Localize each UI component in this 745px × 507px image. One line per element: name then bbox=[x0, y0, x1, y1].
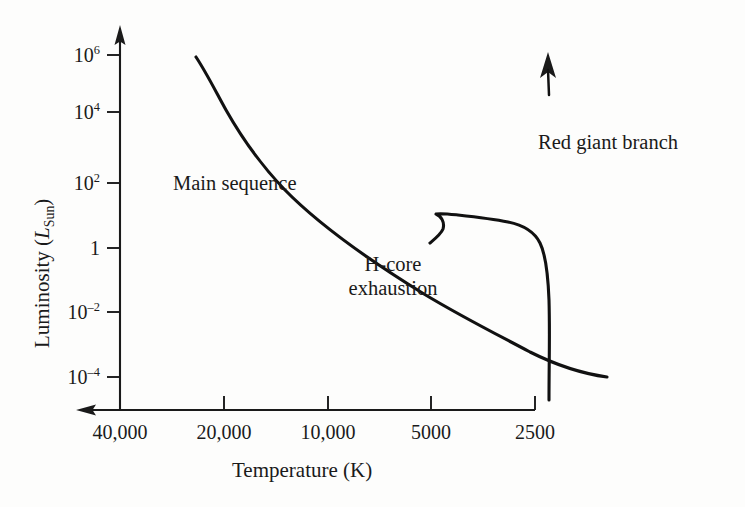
y-tick-label-1e6: 106 bbox=[44, 44, 100, 68]
x-tick-label-20000: 20,000 bbox=[164, 421, 284, 445]
red-giant-branch-arrow-stem bbox=[548, 70, 549, 95]
y-axis-title: Luminosity (LSun) bbox=[30, 199, 55, 348]
x-tick-label-40000: 40,000 bbox=[60, 421, 180, 445]
x-tick-label-10000: 10,000 bbox=[268, 421, 388, 445]
main-sequence-curve bbox=[196, 57, 607, 377]
annotation-h-core-line-1: H-core bbox=[328, 252, 458, 276]
annotation-h-core-exhaustion: H-core exhaustion bbox=[328, 252, 458, 300]
annotation-main-sequence: Main sequence bbox=[173, 171, 297, 195]
annotation-red-giant-branch: Red giant branch bbox=[538, 130, 678, 154]
x-tick-label-5000: 5000 bbox=[376, 421, 486, 445]
x-tick-label-2500: 2500 bbox=[480, 421, 590, 445]
y-tick-label-1e-4: 10–4 bbox=[38, 366, 100, 390]
x-axis-title: Temperature (K) bbox=[232, 458, 372, 483]
hr-diagram-figure: 106 104 102 1 10–2 10–4 40,000 20,000 10… bbox=[0, 0, 745, 507]
y-tick-label-1e2: 102 bbox=[44, 172, 100, 196]
y-tick-label-1e4: 104 bbox=[44, 101, 100, 125]
annotation-h-core-line-2: exhaustion bbox=[328, 276, 458, 300]
